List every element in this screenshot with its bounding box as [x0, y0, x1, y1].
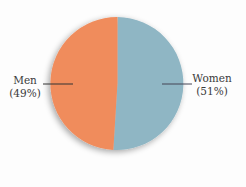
label-men-name: Men: [6, 74, 44, 87]
label-women-pct: (51%): [192, 85, 232, 98]
label-men-pct: (49%): [6, 87, 44, 100]
label-women: Women (51%): [192, 72, 232, 97]
label-men: Men (49%): [6, 74, 44, 99]
slice-women: [113, 17, 183, 150]
label-women-name: Women: [192, 72, 232, 85]
pie-chart: Men (49%) Women (51%): [0, 0, 246, 187]
slice-men: [50, 17, 117, 150]
